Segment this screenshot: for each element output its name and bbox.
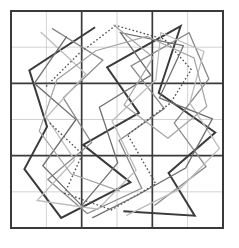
figure-caption — [8, 236, 158, 246]
zigzag-polyline-plot — [0, 0, 239, 248]
figure-container — [0, 0, 239, 248]
